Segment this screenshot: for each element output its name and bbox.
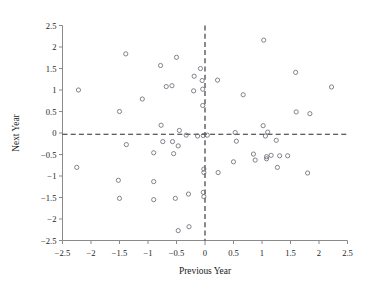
data-point bbox=[253, 158, 257, 162]
x-tick-label: 0.5 bbox=[228, 248, 239, 258]
y-tick-label: −1.5 bbox=[41, 193, 57, 203]
data-point bbox=[187, 225, 191, 229]
data-point bbox=[152, 198, 156, 202]
x-tick-label: −1.5 bbox=[112, 248, 128, 258]
data-point bbox=[251, 152, 255, 156]
y-tick-label: 1 bbox=[52, 85, 56, 95]
data-point bbox=[262, 38, 266, 42]
data-point bbox=[75, 165, 79, 169]
y-tick-label: 0 bbox=[52, 128, 56, 138]
data-point bbox=[116, 178, 120, 182]
data-point bbox=[174, 55, 178, 59]
y-tick-label: −2.5 bbox=[41, 236, 57, 246]
data-point bbox=[192, 89, 196, 93]
data-point bbox=[170, 84, 174, 88]
data-point bbox=[152, 179, 156, 183]
y-tick-label: 2 bbox=[52, 42, 56, 52]
data-point bbox=[161, 140, 165, 144]
data-point bbox=[184, 133, 188, 137]
y-axis-title: Next Year bbox=[11, 113, 21, 151]
data-point bbox=[177, 128, 181, 132]
data-point bbox=[278, 154, 282, 158]
data-point bbox=[200, 78, 204, 82]
data-point bbox=[172, 152, 176, 156]
data-points-group bbox=[75, 38, 334, 233]
data-point bbox=[152, 151, 156, 155]
data-point bbox=[140, 97, 144, 101]
data-point bbox=[306, 171, 310, 175]
data-point bbox=[329, 85, 333, 89]
data-point bbox=[176, 144, 180, 148]
data-point bbox=[173, 196, 177, 200]
data-point bbox=[294, 70, 298, 74]
x-tick-label: 1.5 bbox=[285, 248, 296, 258]
data-point bbox=[176, 229, 180, 233]
data-point bbox=[269, 153, 273, 157]
scatter-plot-canvas: −2.5−2−1.5−1−0.500.511.522.5−2.5−2−1.5−1… bbox=[0, 0, 369, 286]
y-tick-label: 2.5 bbox=[46, 21, 57, 31]
x-tick-label: −2 bbox=[86, 248, 95, 258]
data-point bbox=[294, 110, 298, 114]
scatter-plot-figure: −2.5−2−1.5−1−0.500.511.522.5−2.5−2−1.5−1… bbox=[0, 0, 369, 286]
data-point bbox=[266, 130, 270, 134]
y-tick-label: −2 bbox=[47, 214, 56, 224]
y-tick-label: −0.5 bbox=[41, 150, 57, 160]
data-point bbox=[261, 124, 265, 128]
data-point bbox=[286, 154, 290, 158]
reference-lines-group bbox=[63, 26, 348, 241]
data-point bbox=[159, 123, 163, 127]
x-axis-title: Previous Year bbox=[179, 266, 232, 276]
x-tick-label: −1 bbox=[143, 248, 152, 258]
data-point bbox=[241, 93, 245, 97]
y-tick-label: −1 bbox=[47, 171, 56, 181]
tick-labels-group: −2.5−2−1.5−1−0.500.511.522.5−2.5−2−1.5−1… bbox=[41, 21, 353, 258]
data-point bbox=[275, 165, 279, 169]
x-tick-label: 1 bbox=[260, 248, 264, 258]
data-point bbox=[170, 140, 174, 144]
data-point bbox=[192, 74, 196, 78]
data-point bbox=[202, 195, 206, 199]
data-point bbox=[274, 138, 278, 142]
x-tick-label: 0 bbox=[203, 248, 207, 258]
x-tick-label: 2 bbox=[317, 248, 321, 258]
data-point bbox=[201, 87, 205, 91]
axes-group bbox=[59, 26, 348, 246]
y-tick-label: 1.5 bbox=[46, 64, 57, 74]
data-point bbox=[158, 63, 162, 67]
data-point bbox=[124, 143, 128, 147]
data-point bbox=[231, 160, 235, 164]
y-tick-label: 0.5 bbox=[46, 107, 57, 117]
data-point bbox=[205, 133, 209, 137]
data-point bbox=[76, 88, 80, 92]
data-point bbox=[234, 139, 238, 143]
data-point bbox=[117, 109, 121, 113]
data-point bbox=[308, 112, 312, 116]
x-tick-label: 2.5 bbox=[342, 248, 353, 258]
x-tick-label: −2.5 bbox=[55, 248, 71, 258]
data-point bbox=[263, 134, 267, 138]
data-point bbox=[216, 170, 220, 174]
data-point bbox=[117, 196, 121, 200]
data-point bbox=[164, 84, 168, 88]
data-point bbox=[201, 103, 205, 107]
data-point bbox=[124, 52, 128, 56]
x-tick-label: −0.5 bbox=[169, 248, 185, 258]
data-point bbox=[215, 78, 219, 82]
data-point bbox=[186, 192, 190, 196]
data-point bbox=[198, 66, 202, 70]
